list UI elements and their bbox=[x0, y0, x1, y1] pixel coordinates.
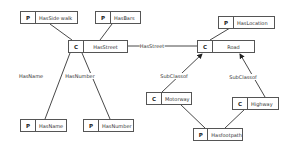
node-label: HasSide walk bbox=[36, 12, 77, 23]
class-badge: C bbox=[233, 98, 248, 109]
property-node-hasnumber[interactable]: PHasNumber bbox=[83, 119, 134, 132]
class-badge: C bbox=[198, 41, 213, 52]
edge-line bbox=[45, 53, 70, 119]
node-label: HasLocation bbox=[234, 17, 274, 28]
edge-label: SubClassof bbox=[160, 73, 188, 79]
edge-line bbox=[50, 24, 72, 40]
node-label: HasNumber bbox=[99, 120, 133, 131]
property-badge: P bbox=[96, 12, 111, 23]
edge-line bbox=[82, 53, 110, 119]
node-label: HasBars bbox=[111, 12, 140, 23]
class-badge: C bbox=[147, 93, 162, 104]
edge-label: HasNumber bbox=[65, 73, 95, 79]
property-node-haslocation[interactable]: PHasLocation bbox=[218, 16, 275, 29]
property-node-hasbars[interactable]: PHasBars bbox=[95, 11, 141, 24]
class-node-highway[interactable]: CHighway bbox=[232, 97, 279, 110]
property-node-hassidewalk[interactable]: PHasSide walk bbox=[20, 11, 78, 24]
property-badge: P bbox=[21, 120, 36, 131]
node-label: Highway bbox=[248, 98, 278, 109]
node-label: HasStreet bbox=[84, 41, 127, 52]
edge-line bbox=[210, 28, 230, 40]
property-badge: P bbox=[219, 17, 234, 28]
edge-line bbox=[225, 109, 245, 128]
property-node-hasname[interactable]: PHasName bbox=[20, 119, 67, 132]
class-node-road[interactable]: CRoad bbox=[197, 40, 255, 53]
node-label: Road bbox=[213, 41, 254, 52]
class-badge: C bbox=[69, 41, 84, 52]
class-node-hasstreet[interactable]: CHasStreet bbox=[68, 40, 128, 53]
edge-line bbox=[100, 24, 112, 40]
edge-line bbox=[180, 104, 205, 128]
property-badge: P bbox=[84, 120, 99, 131]
edge-label: HasStreet bbox=[140, 43, 165, 49]
property-badge: P bbox=[194, 129, 208, 140]
node-label: HasName bbox=[36, 120, 66, 131]
node-label: Hasfootpath bbox=[208, 129, 242, 140]
node-label: Motorway bbox=[162, 93, 191, 104]
edge-label: SubClassof bbox=[229, 74, 257, 80]
property-badge: P bbox=[21, 12, 36, 23]
edge-label: HasName bbox=[19, 73, 43, 79]
class-node-motorway[interactable]: CMotorway bbox=[146, 92, 192, 105]
property-node-hasfootpath[interactable]: PHasfootpath bbox=[193, 128, 243, 141]
